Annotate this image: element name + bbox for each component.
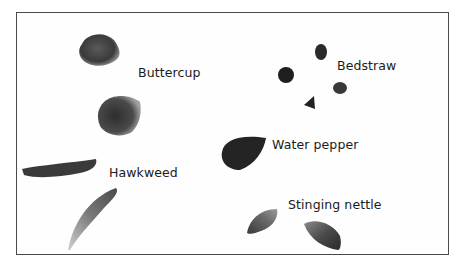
label-stinging-nettle: Stinging nettle (288, 197, 382, 212)
label-buttercup: Buttercup (138, 65, 201, 80)
hawkweed-seed-icon (20, 157, 98, 179)
stinging-nettle-seed-icon (302, 218, 344, 252)
bedstraw-seed-icon (314, 43, 328, 61)
bedstraw-seed-icon (302, 95, 316, 111)
water-pepper-seed-icon (218, 134, 268, 172)
hawkweed-seed-icon (64, 186, 120, 252)
label-bedstraw: Bedstraw (337, 58, 396, 73)
buttercup-seed-icon (76, 30, 124, 70)
stinging-nettle-seed-icon (245, 205, 281, 235)
label-water-pepper: Water pepper (272, 137, 358, 152)
bedstraw-seed-icon (277, 66, 295, 84)
bedstraw-seed-icon (332, 81, 348, 95)
label-hawkweed: Hawkweed (109, 165, 178, 180)
buttercup-seed-icon (96, 92, 144, 138)
